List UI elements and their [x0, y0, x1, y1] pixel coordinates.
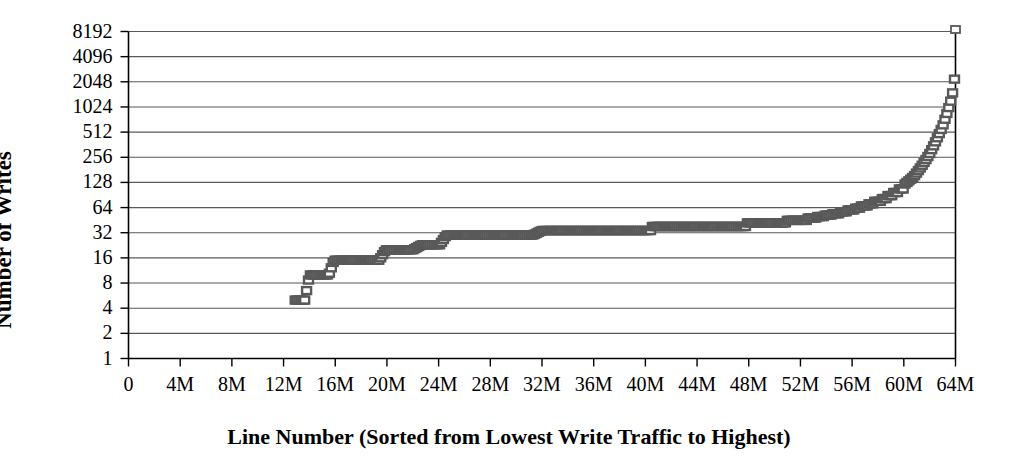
gridlines	[129, 32, 956, 359]
y-tick-label: 8	[43, 271, 113, 294]
y-tick-label: 2048	[43, 70, 113, 93]
y-tick-label: 32	[43, 221, 113, 244]
y-tick-label: 2	[43, 321, 113, 344]
data-marker	[300, 297, 309, 304]
data-marker	[302, 287, 311, 294]
y-tick-label: 4	[43, 296, 113, 319]
x-axis-ticks	[129, 359, 956, 367]
plot-area	[0, 0, 1018, 473]
x-axis-title: Line Number (Sorted from Lowest Write Tr…	[0, 424, 1018, 450]
y-tick-label: 512	[43, 120, 113, 143]
y-tick-label: 128	[43, 170, 113, 193]
data-series-markers	[291, 26, 960, 304]
data-marker	[948, 89, 957, 96]
x-tick-label: 64M	[926, 373, 986, 396]
plot-frame	[129, 32, 956, 359]
y-axis-title: Number of Writes	[0, 90, 17, 390]
chart-figure: Number of Writes Line Number (Sorted fro…	[0, 0, 1018, 473]
y-tick-label: 256	[43, 145, 113, 168]
y-tick-label: 1	[43, 347, 113, 370]
data-marker	[950, 76, 959, 83]
data-marker	[946, 98, 955, 105]
y-tick-label: 16	[43, 246, 113, 269]
y-axis-ticks	[121, 32, 129, 359]
y-tick-label: 8192	[43, 20, 113, 43]
data-marker-max	[951, 26, 960, 33]
y-tick-label: 64	[43, 196, 113, 219]
y-tick-label: 4096	[43, 45, 113, 68]
y-tick-label: 1024	[43, 95, 113, 118]
